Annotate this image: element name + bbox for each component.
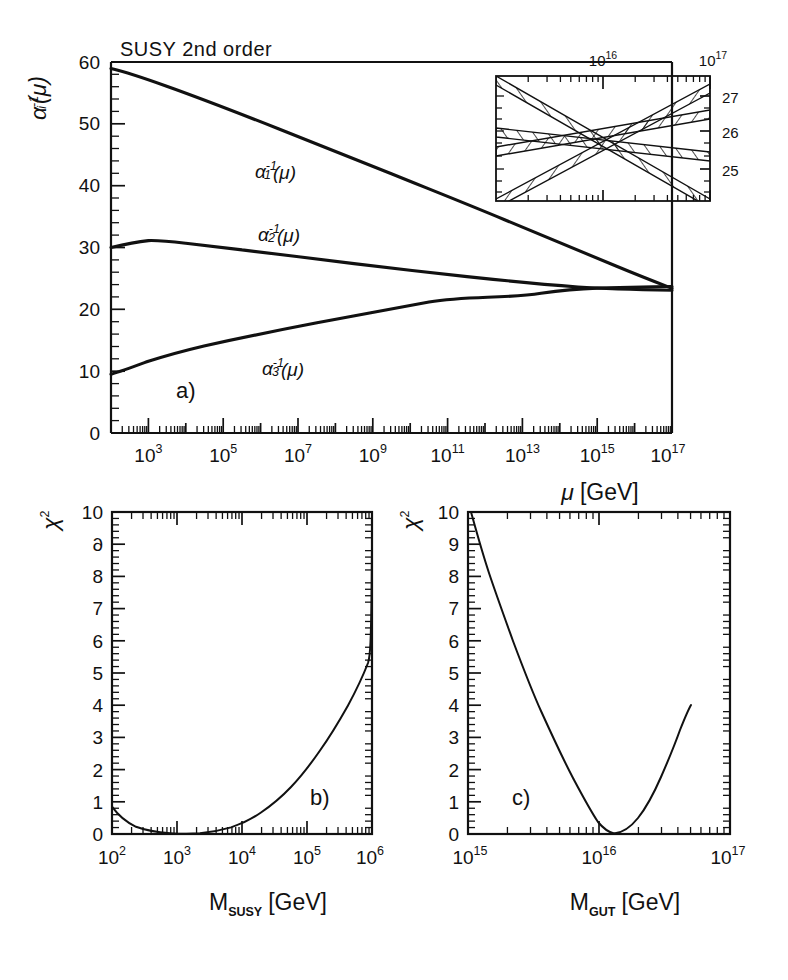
panel-b-ylabel: χ2 [37,510,63,532]
svg-text:χ2: χ2 [37,510,63,532]
svg-text:26: 26 [722,124,739,141]
svg-text:7: 7 [92,598,103,619]
svg-text:25: 25 [722,162,739,179]
svg-text:60: 60 [79,52,100,73]
panel-b-xlabel: MSUSY[GeV] [209,889,327,919]
panel-a-curve-label-2: α-12(μ) [258,222,300,246]
svg-text:102: 102 [98,844,126,868]
panel-c: χ2 0 1 2 3 4 5 6 7 8 9 10 [397,502,746,919]
inset-xtick-1e16: 1016 [589,49,618,69]
svg-text:6: 6 [92,631,103,652]
svg-text:103: 103 [163,844,191,868]
svg-text:8: 8 [448,566,459,587]
panel-a-label: a) [176,378,196,403]
svg-text:3: 3 [448,727,459,748]
svg-text:105: 105 [293,844,321,868]
panel-b-frame [112,512,372,834]
panel-c-ylabel: χ2 [397,510,423,532]
svg-text:1: 1 [448,792,459,813]
inset-xtick-1e17: 1017 [699,49,728,69]
panel-c-x-ticks: 1015 1016 1017 [452,512,745,868]
svg-text:9: 9 [448,534,459,555]
svg-text:6: 6 [448,631,459,652]
panel-c-curve-right [614,705,691,834]
svg-text:2: 2 [92,760,103,781]
svg-text:103: 103 [134,442,162,466]
panel-b: χ2 0 1 2 3 4 5 6 7 8 9 10 [37,502,384,919]
svg-text:0: 0 [448,824,459,845]
svg-text:106: 106 [356,844,384,868]
svg-text:27: 27 [722,89,739,106]
panel-b-curve [112,548,372,834]
panel-a-curve-label-1: α-11(μ) [255,159,296,183]
svg-text:8: 8 [92,566,103,587]
svg-text:1: 1 [92,792,103,813]
curve-alpha1 [111,69,672,289]
panel-a-x-ticks: 103 105 107 109 1011 1013 1015 1017 [111,418,686,466]
svg-text:α-1i(μ): α-1i(μ) [25,76,51,120]
panel-b-label: b) [310,785,330,810]
curve-alpha3 [111,287,672,375]
svg-text:10: 10 [82,502,103,523]
svg-text:105: 105 [209,442,237,466]
svg-text:4: 4 [448,695,459,716]
svg-text:1017: 1017 [650,442,685,466]
svg-text:1013: 1013 [505,442,540,466]
svg-text:4: 4 [92,695,103,716]
svg-text:1017: 1017 [710,844,745,868]
panel-a-y-ticks: 0 10 20 30 40 50 60 [79,52,125,444]
svg-text:1011: 1011 [431,442,465,466]
inset-plot: 1016 1017 25 26 27 [496,49,739,208]
svg-text:30: 30 [79,237,100,258]
svg-text:10: 10 [438,502,459,523]
svg-text:0: 0 [92,824,103,845]
panel-c-y-ticks: 0 1 2 3 4 5 6 7 8 9 10 [438,502,730,845]
svg-text:40: 40 [79,175,100,196]
svg-text:9: 9 [92,534,103,555]
svg-text:107: 107 [284,442,312,466]
svg-text:0: 0 [89,423,100,444]
svg-text:1015: 1015 [452,844,487,868]
svg-text:1016: 1016 [581,844,616,868]
curve-alpha2 [111,241,672,291]
figure-svg: α-1i(μ) SUSY 2nd order 0 10 20 30 40 50 … [0,0,788,980]
svg-text:5: 5 [448,663,459,684]
svg-text:1015: 1015 [580,442,615,466]
svg-text:χ2: χ2 [397,510,423,532]
figure-root: α-1i(μ) SUSY 2nd order 0 10 20 30 40 50 … [0,0,788,980]
svg-text:α-12(μ): α-12(μ) [258,222,300,246]
panel-c-xlabel: MGUT[GeV] [570,889,680,919]
panel-a-title: SUSY 2nd order [120,38,272,60]
svg-text:3: 3 [92,727,103,748]
svg-text:7: 7 [448,598,459,619]
panel-a: α-1i(μ) SUSY 2nd order 0 10 20 30 40 50 … [25,38,686,505]
svg-text:104: 104 [228,844,256,868]
svg-text:10: 10 [79,361,100,382]
panel-a-curve-label-3: α-13(μ) [262,356,304,380]
panel-c-frame [468,512,730,834]
panel-c-label: c) [512,785,530,810]
panel-a-ylabel: α-1i(μ) [25,76,51,120]
panel-b-x-ticks: 102 103 104 105 106 [98,512,384,868]
svg-text:50: 50 [79,113,100,134]
panel-a-xlabel: μ[GeV] [560,479,638,505]
svg-text:α-13(μ): α-13(μ) [262,356,304,380]
svg-text:20: 20 [79,299,100,320]
svg-text:2: 2 [448,760,459,781]
svg-text:109: 109 [359,442,387,466]
svg-text:α-11(μ): α-11(μ) [255,159,296,183]
svg-text:5: 5 [92,663,103,684]
panel-c-curve [471,512,614,834]
